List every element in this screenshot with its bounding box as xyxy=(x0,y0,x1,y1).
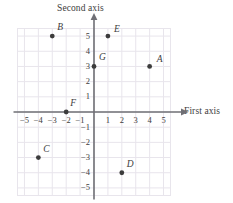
y-tick-label: 5 xyxy=(72,32,90,41)
y-tick-label: 3 xyxy=(72,62,90,71)
coordinate-plane-figure: Second axis First axis −5−4−3−2−11234554… xyxy=(0,0,233,203)
point-label-g: G xyxy=(99,53,106,63)
x-tick-label: 5 xyxy=(154,116,174,125)
data-point-b xyxy=(50,34,55,39)
point-label-f: F xyxy=(70,99,76,109)
y-tick-label: −1 xyxy=(72,123,90,132)
point-label-e: E xyxy=(114,25,120,35)
y-tick-label: 2 xyxy=(72,77,90,86)
data-point-d xyxy=(119,170,124,175)
point-label-b: B xyxy=(57,23,63,33)
y-tick-label: −5 xyxy=(72,183,90,192)
y-tick-label: −4 xyxy=(72,168,90,177)
point-label-a: A xyxy=(157,55,163,65)
data-point-g xyxy=(92,64,97,69)
data-point-a xyxy=(147,64,152,69)
data-point-f xyxy=(64,110,69,115)
data-point-e xyxy=(106,34,111,39)
data-point-c xyxy=(36,155,41,160)
y-tick-label: −3 xyxy=(72,153,90,162)
point-label-c: C xyxy=(43,145,49,155)
y-tick-label: 4 xyxy=(72,47,90,56)
y-tick-label: −2 xyxy=(72,138,90,147)
point-label-d: D xyxy=(127,160,134,170)
